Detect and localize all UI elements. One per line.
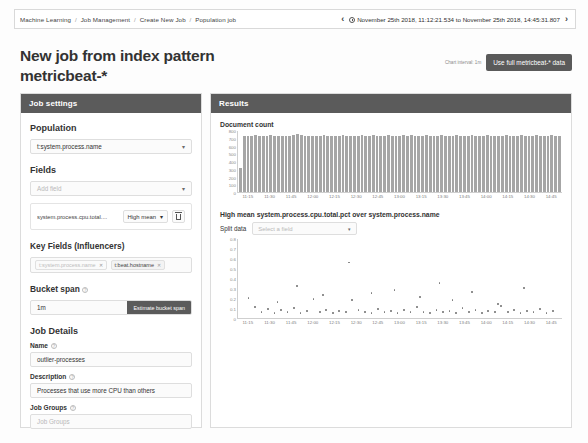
bar — [402, 135, 405, 192]
fields-section-title: Fields — [30, 165, 192, 175]
chevron-right-icon[interactable]: › — [565, 15, 568, 24]
bucket-span-section-title: Bucket span ? — [30, 284, 192, 294]
bar — [482, 136, 485, 192]
close-icon[interactable]: ✕ — [157, 262, 161, 268]
name-label-text: Name — [30, 342, 48, 349]
bar — [398, 136, 401, 192]
detector-function-select[interactable]: High mean ▾ — [123, 210, 169, 223]
results-panel: Results Document count 01002003004005006… — [210, 93, 572, 428]
date-range-text: November 25th 2018, 11:12:21.534 to Nove… — [357, 16, 560, 23]
x-tick: 13:00 — [394, 320, 405, 325]
bar — [474, 136, 477, 192]
data-point — [280, 309, 282, 311]
bar — [258, 136, 261, 192]
document-count-label: Document count — [220, 121, 562, 128]
bar — [304, 136, 307, 192]
bar — [448, 136, 451, 192]
y-tick: 600 — [229, 144, 236, 149]
top-navigation-bar: Machine Learning / Job Management / Crea… — [14, 9, 576, 29]
data-point — [455, 312, 457, 314]
bar — [288, 136, 291, 192]
chart-interval-label: Chart interval: 1m — [445, 60, 481, 65]
data-point — [390, 310, 392, 312]
name-field-label: Name ? — [30, 342, 192, 349]
bar — [406, 136, 409, 192]
data-point — [500, 305, 502, 307]
data-point — [277, 301, 279, 303]
data-point — [377, 308, 379, 310]
bar — [524, 136, 527, 192]
question-icon[interactable]: ? — [82, 287, 88, 293]
split-data-placeholder: Select a field — [258, 226, 292, 232]
question-icon[interactable]: ? — [70, 405, 76, 411]
bar — [417, 136, 420, 192]
bar — [414, 136, 417, 192]
influencer-pill-system-process-name[interactable]: t:system.process.name ✕ — [35, 260, 107, 270]
estimate-bucket-span-button[interactable]: Estimate bucket span — [127, 301, 191, 314]
breadcrumb-item-create-new-job[interactable]: Create New Job — [140, 16, 186, 23]
bar — [391, 136, 394, 192]
data-point — [371, 312, 373, 314]
bar — [372, 135, 375, 192]
breadcrumb-separator: / — [188, 16, 194, 23]
data-point — [345, 311, 347, 313]
job-name-input[interactable]: outlier-processes — [30, 352, 192, 367]
bucket-span-label: Bucket span — [30, 284, 80, 294]
close-icon[interactable]: ✕ — [99, 262, 103, 268]
y-tick: 0.6 — [230, 257, 236, 262]
influencers-tag-input[interactable]: t:system.process.name ✕ t:beat.hostname … — [30, 257, 192, 273]
bar — [345, 136, 348, 192]
bar — [395, 136, 398, 192]
delete-detector-button[interactable] — [172, 210, 185, 223]
question-icon[interactable]: ? — [69, 374, 75, 380]
bar — [239, 168, 242, 192]
job-description-input[interactable]: Processes that use more CPU than others — [30, 383, 192, 398]
population-field-value: t:system.process.name — [37, 143, 102, 150]
data-point — [526, 310, 528, 312]
x-tick: 14:00 — [481, 194, 492, 199]
chevron-left-icon[interactable]: ‹ — [341, 15, 344, 24]
x-tick: 12:30 — [351, 320, 362, 325]
x-tick: 12:30 — [351, 194, 362, 199]
use-full-data-button[interactable]: Use full metricbeat-* data — [486, 54, 572, 71]
data-point — [358, 309, 360, 311]
x-tick: 14:15 — [502, 194, 513, 199]
breadcrumb-item-job-management[interactable]: Job Management — [81, 16, 131, 23]
bucket-span-input[interactable]: 1m — [37, 304, 46, 311]
job-groups-input[interactable]: Job Groups — [30, 414, 192, 429]
bar — [254, 135, 257, 192]
bar — [364, 136, 367, 192]
split-data-select[interactable]: Select a field ▾ — [252, 222, 357, 235]
data-point — [338, 310, 340, 312]
influencer-pill-beat-hostname[interactable]: t:beat.hostname ✕ — [111, 260, 165, 270]
bar — [535, 135, 538, 192]
data-point — [546, 312, 548, 314]
bar — [558, 136, 561, 192]
data-point — [487, 310, 489, 312]
population-section-title: Population — [30, 123, 192, 133]
data-point — [416, 306, 418, 308]
date-range-display[interactable]: November 25th 2018, 11:12:21.534 to Nove… — [349, 16, 560, 23]
bar — [262, 136, 265, 192]
bar — [285, 136, 288, 192]
data-point — [497, 303, 499, 305]
breadcrumb-separator: / — [132, 16, 138, 23]
data-point — [296, 285, 298, 287]
clock-icon — [349, 17, 355, 23]
document-count-bars — [238, 131, 562, 192]
document-count-y-axis: 0100200300400500600700800 — [220, 131, 237, 193]
population-field-select[interactable]: t:system.process.name ▾ — [30, 139, 192, 154]
question-icon[interactable]: ? — [51, 343, 57, 349]
job-settings-panel-title: Job settings — [21, 94, 201, 113]
add-field-select[interactable]: Add field ▾ — [30, 181, 192, 196]
bar — [490, 136, 493, 192]
bar — [292, 135, 295, 192]
data-point — [410, 311, 412, 313]
bar — [520, 135, 523, 192]
bar — [497, 136, 500, 192]
data-point — [306, 310, 308, 312]
document-count-plot — [237, 131, 562, 193]
breadcrumb-item-population-job[interactable]: Population job — [195, 16, 236, 23]
data-point — [397, 312, 399, 314]
breadcrumb-item-machine-learning[interactable]: Machine Learning — [20, 16, 71, 23]
